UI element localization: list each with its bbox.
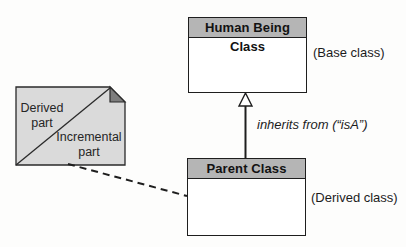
note-incremental-part-label: Incremental part bbox=[49, 130, 129, 160]
derived-class-title: Parent Class bbox=[188, 159, 305, 179]
base-class-annotation: (Base class) bbox=[313, 45, 385, 60]
base-class-box: Human Being Class bbox=[188, 17, 307, 93]
derived-class-annotation: (Derived class) bbox=[311, 190, 398, 205]
base-class-title: Human Being Class bbox=[189, 18, 306, 38]
uml-inheritance-diagram: Human Being Class (Base class) Parent Cl… bbox=[0, 0, 406, 247]
inheritance-arrow-head bbox=[239, 93, 252, 106]
note-derived-part-label: Derived part bbox=[13, 101, 71, 131]
inheritance-edge-label: inherits from (“isA”) bbox=[257, 117, 368, 132]
derived-class-box: Parent Class bbox=[187, 158, 306, 236]
note-anchor-dashed-line bbox=[68, 164, 187, 196]
note-fold-corner bbox=[110, 87, 125, 102]
